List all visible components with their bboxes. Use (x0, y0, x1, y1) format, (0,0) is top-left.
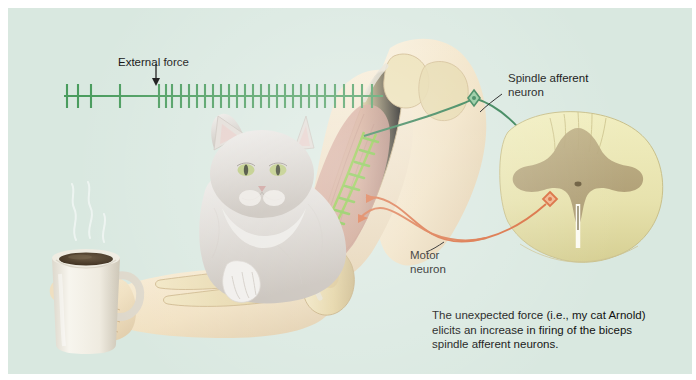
caption-line-2: elicits an increase in firing of the bic… (432, 323, 682, 338)
figure-caption: The unexpected force (i.e., my cat Arnol… (432, 308, 682, 352)
spinal-cord (500, 112, 663, 263)
spike-train-chart (64, 64, 383, 108)
steam (72, 182, 105, 242)
external-force-label: External force (118, 56, 189, 70)
caption-line-1: The unexpected force (i.e., my cat Arnol… (432, 308, 682, 323)
figure-container: External force Spindle afferent neuron M… (0, 0, 696, 380)
illustration-panel: External force Spindle afferent neuron M… (8, 8, 692, 374)
spindle-afferent-label: Spindle afferent neuron (508, 72, 588, 99)
caption-line-3: spindle afferent neurons. (432, 337, 682, 352)
motor-neuron-label: Motor neuron (410, 249, 446, 276)
